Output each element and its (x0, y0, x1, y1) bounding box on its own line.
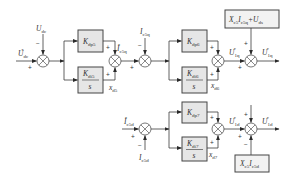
label-u1q-ref-pi: U1q* (229, 47, 240, 58)
label-ic5q-ref: Ic5q* (116, 43, 127, 54)
svg-text:+: + (131, 133, 135, 140)
svg-text:+: + (130, 64, 134, 71)
svg-text:+: + (238, 64, 242, 71)
block-kdi5-integrator: Kdi5 s (78, 67, 103, 93)
svg-text:s: s (193, 151, 196, 160)
svg-text:−: − (138, 142, 142, 149)
summing-junction-3 (139, 55, 151, 67)
block-kdp6: Kdp6 (182, 30, 207, 52)
block-kdp7: Kdp7 (182, 102, 207, 123)
svg-text:+: + (238, 133, 242, 140)
label-ic5d-ref: Ic5d* (123, 116, 134, 127)
summing-junction-1 (37, 55, 49, 67)
block-kdi7-integrator: Kdi7 s (182, 137, 207, 161)
summing-junction-4 (212, 55, 224, 67)
svg-text:+: + (106, 44, 110, 51)
summing-junction-5 (245, 55, 257, 67)
feedforward-box-d: Xc5Ic5d (235, 155, 269, 172)
svg-text:s: s (89, 82, 92, 91)
label-ic5d: Ic5d (138, 153, 149, 163)
label-u1q-ref: U1q* (262, 47, 273, 58)
svg-text:+: + (210, 114, 214, 121)
svg-text:s: s (193, 82, 196, 91)
label-xd5: xd5 (108, 83, 118, 93)
svg-text:+: + (210, 139, 214, 146)
summing-junction-8 (245, 123, 257, 135)
label-xd6: xd6 (210, 81, 220, 91)
control-block-diagram: Udc* + Udc − Kdp5 Kdi5 s + + xd5 Ic5q* +… (0, 0, 290, 181)
svg-text:+: + (106, 71, 110, 78)
svg-text:+: + (210, 71, 214, 78)
label-u1d-ref: U1d* (262, 116, 273, 127)
svg-text:+: + (244, 40, 248, 47)
summing-junction-6 (139, 123, 151, 135)
block-kdp5: Kdp5 (78, 30, 103, 52)
label-xd7: xd7 (208, 150, 218, 160)
label-ic5q: Ic5q (139, 27, 150, 37)
summing-junction-7 (212, 123, 224, 135)
label-udc-ref: Udc* (18, 48, 29, 59)
label-u1d-ref-pi: U1d* (229, 116, 240, 127)
svg-text:+: + (244, 111, 248, 118)
svg-text:−: − (138, 42, 142, 49)
sign-minus: − (36, 40, 40, 47)
block-kdi6-integrator: Kdi6 s (182, 67, 207, 93)
sign-plus: + (28, 64, 32, 71)
svg-text:+: + (210, 44, 214, 51)
svg-text:−: − (244, 141, 248, 148)
summing-junction-2 (109, 55, 121, 67)
label-udc: Udc (36, 24, 47, 34)
feedforward-box-q: Xc5Ic5q+Uds (225, 10, 279, 28)
